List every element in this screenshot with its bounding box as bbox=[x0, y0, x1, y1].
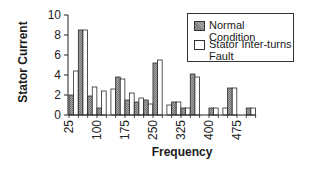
bar-normal bbox=[88, 96, 93, 115]
bar-normal bbox=[134, 102, 139, 115]
bar-normal bbox=[172, 102, 177, 115]
x-tick-label: 475 bbox=[230, 120, 244, 140]
bar-fault bbox=[130, 93, 135, 115]
x-tick-label: 325 bbox=[174, 120, 188, 140]
bar-fault bbox=[102, 91, 107, 115]
bar-normal bbox=[153, 63, 158, 115]
legend: Normal Condition Stator Inter-turns Faul… bbox=[187, 13, 294, 62]
bar-fault bbox=[120, 79, 125, 115]
x-tick-label: 175 bbox=[118, 120, 132, 140]
bar-normal bbox=[116, 77, 121, 115]
bar-fault bbox=[232, 88, 237, 115]
bar-fault bbox=[195, 77, 200, 115]
normal-swatch-icon bbox=[194, 21, 205, 31]
bar-normal bbox=[209, 108, 214, 115]
bar-fault bbox=[74, 71, 79, 115]
bar-fault bbox=[158, 60, 163, 115]
x-tick-label: 25 bbox=[62, 120, 76, 134]
y-axis-label: Stator Current bbox=[16, 21, 30, 102]
x-axis-label: Frequency bbox=[152, 145, 213, 159]
y-tick-label: 0 bbox=[54, 108, 61, 122]
y-tick-label: 6 bbox=[54, 48, 61, 62]
bar-normal bbox=[97, 108, 102, 115]
bar-normal bbox=[69, 95, 74, 115]
bar-fault bbox=[148, 104, 153, 115]
x-tick-label: 250 bbox=[146, 120, 160, 140]
bar-fault bbox=[111, 89, 116, 115]
bar-fault bbox=[92, 87, 97, 115]
y-tick-label: 4 bbox=[54, 68, 61, 82]
bar-normal bbox=[190, 74, 195, 115]
x-tick-label: 400 bbox=[202, 120, 216, 140]
bar-fault bbox=[83, 30, 88, 115]
x-tick-label: 100 bbox=[90, 120, 104, 140]
bar-fault bbox=[167, 105, 172, 115]
bar-fault bbox=[214, 108, 219, 115]
y-tick-label: 8 bbox=[54, 28, 61, 42]
bar-fault bbox=[223, 108, 228, 115]
bar-fault bbox=[251, 108, 256, 115]
bar-normal bbox=[181, 108, 186, 115]
y-tick-label: 2 bbox=[54, 88, 61, 102]
fault-swatch-icon bbox=[194, 40, 205, 50]
bar-fault bbox=[176, 102, 181, 115]
bar-normal bbox=[78, 30, 83, 115]
legend-label-fault: Stator Inter-turns Fault bbox=[209, 38, 292, 62]
bar-fault bbox=[186, 108, 191, 115]
y-tick-label: 10 bbox=[48, 8, 62, 22]
bar-normal bbox=[228, 88, 233, 115]
bar-normal bbox=[246, 108, 251, 115]
bar-normal bbox=[144, 100, 149, 115]
bar-fault bbox=[139, 98, 144, 115]
legend-item-fault: Stator Inter-turns Fault bbox=[194, 38, 292, 62]
bar-normal bbox=[125, 100, 130, 115]
